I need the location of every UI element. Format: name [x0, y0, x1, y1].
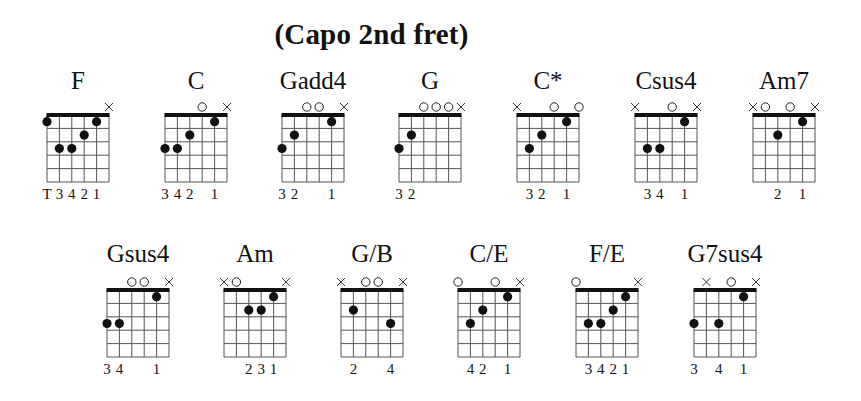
finger-number: 1: [91, 185, 103, 203]
open-string-icon: [198, 103, 206, 111]
finger-number: 3: [53, 185, 65, 203]
finger-number: 1: [620, 360, 632, 378]
muted-string-icon: [105, 103, 113, 111]
finger-numbers: 32: [399, 185, 489, 203]
finger-dot: [160, 144, 169, 153]
chord-diagram-g-b: G/B24: [341, 241, 441, 401]
open-string-icon: [761, 103, 769, 111]
finger-number: 1: [502, 360, 514, 378]
finger-dot: [290, 131, 299, 140]
finger-dot: [115, 319, 124, 328]
finger-number: 1: [151, 360, 163, 378]
finger-dot: [394, 144, 403, 153]
finger-dot: [773, 131, 782, 140]
finger-dot: [173, 144, 182, 153]
nut-bar: [635, 113, 698, 117]
finger-numbers: 321: [282, 185, 372, 203]
finger-number: 4: [171, 185, 183, 203]
chord-name: Csus4: [615, 68, 717, 93]
nut-bar: [224, 288, 287, 292]
nut-bar: [282, 113, 345, 117]
fretboard-grid: [568, 275, 650, 361]
muted-string-icon: [223, 103, 231, 111]
finger-numbers: 341: [635, 185, 725, 203]
finger-numbers: 421: [458, 360, 548, 378]
finger-dot: [102, 319, 111, 328]
muted-string-icon: [457, 103, 465, 111]
finger-number: 1: [326, 185, 338, 203]
nut-bar: [753, 113, 816, 117]
muted-string-icon: [337, 278, 345, 286]
open-string-icon: [454, 278, 462, 286]
finger-number: 3: [159, 185, 171, 203]
open-string-icon: [232, 278, 240, 286]
finger-number: 4: [713, 360, 725, 378]
finger-number: 2: [477, 360, 489, 378]
open-string-icon: [420, 103, 428, 111]
finger-dot: [584, 319, 593, 328]
open-string-icon: [374, 278, 382, 286]
finger-number: 2: [184, 185, 196, 203]
finger-dot: [503, 292, 512, 301]
finger-number: 3: [101, 360, 113, 378]
finger-numbers: 341: [107, 360, 197, 378]
muted-string-icon: [749, 103, 757, 111]
fretboard-grid: [39, 102, 121, 186]
finger-number: 4: [464, 360, 476, 378]
finger-dot: [478, 306, 487, 315]
finger-number: 2: [607, 360, 619, 378]
finger-numbers: 3421: [165, 185, 255, 203]
finger-number: 3: [276, 185, 288, 203]
finger-dot: [739, 292, 748, 301]
open-string-icon: [140, 278, 148, 286]
finger-number: 4: [66, 185, 78, 203]
finger-number: 1: [268, 360, 280, 378]
finger-dot: [643, 144, 652, 153]
muted-string-icon: [340, 103, 348, 111]
finger-numbers: 341: [694, 360, 784, 378]
chord-name: F: [27, 68, 129, 93]
chord-name: C/E: [438, 241, 540, 266]
chord-name: Gadd4: [262, 68, 364, 93]
finger-number: 3: [688, 360, 700, 378]
finger-numbers: 3421: [576, 360, 666, 378]
finger-number: 3: [255, 360, 267, 378]
fretboard-grid: [745, 102, 827, 186]
finger-dot: [466, 319, 475, 328]
finger-dot: [269, 292, 278, 301]
fretboard-grid: [99, 275, 181, 361]
finger-dot: [185, 131, 194, 140]
chord-diagram-g7sus4: G7sus4341: [694, 241, 794, 401]
finger-numbers: 231: [224, 360, 314, 378]
finger-number: 2: [772, 185, 784, 203]
fretboard-grid: [157, 102, 239, 186]
open-string-icon: [786, 103, 794, 111]
open-string-icon: [575, 103, 583, 111]
finger-number: 4: [595, 360, 607, 378]
finger-dot: [798, 117, 807, 126]
fretboard-grid: [216, 275, 298, 361]
finger-number: 3: [393, 185, 405, 203]
chord-name: Am7: [733, 68, 835, 93]
fretboard-grid: [686, 275, 768, 361]
finger-number: 1: [738, 360, 750, 378]
chord-diagram-c: C*321: [517, 68, 617, 228]
open-string-icon: [444, 103, 452, 111]
fretboard-grid: [450, 275, 532, 361]
finger-dot: [525, 144, 534, 153]
finger-number: 2: [78, 185, 90, 203]
nut-bar: [47, 113, 110, 117]
chord-diagram-am7: Am721: [753, 68, 853, 228]
chord-name: G: [379, 68, 481, 93]
finger-dot: [210, 117, 219, 126]
muted-string-icon: [752, 278, 760, 286]
finger-number: 4: [385, 360, 397, 378]
finger-dot: [562, 117, 571, 126]
finger-number: 1: [797, 185, 809, 203]
finger-number: 2: [536, 185, 548, 203]
muted-string-icon: [282, 278, 290, 286]
finger-number: 1: [561, 185, 573, 203]
nut-bar: [341, 288, 404, 292]
finger-number: 4: [654, 185, 666, 203]
finger-number: 3: [641, 185, 653, 203]
